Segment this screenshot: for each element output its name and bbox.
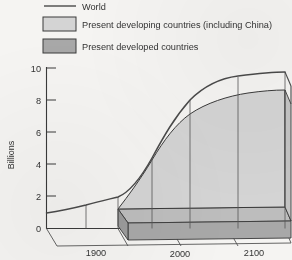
developed-top-face (118, 207, 291, 223)
x-axis: 1900 2000 2100 (86, 248, 264, 259)
floor-front-edge (57, 243, 291, 246)
legend-label-world: World (82, 2, 106, 12)
series-developing-countries (118, 90, 291, 221)
legend-swatch-developed (43, 39, 76, 53)
y-tick-label-10: 10 (31, 64, 41, 74)
legend-item-world: World (44, 2, 106, 12)
legend-item-developing: Present developing countries (including … (43, 17, 272, 31)
legend-item-developed: Present developed countries (43, 39, 199, 53)
y-tick-label-0: 0 (36, 224, 41, 234)
chart-legend: World Present developing countries (incl… (43, 2, 272, 54)
world-curve-right-depth (285, 72, 291, 86)
y-axis: 10 8 6 4 2 0 Billions (6, 64, 56, 234)
x-tick-label-2100: 2100 (244, 248, 264, 258)
y-tick-label-6: 6 (36, 128, 41, 138)
x-tick-label-2000: 2000 (170, 249, 190, 259)
y-tick-label-4: 4 (36, 160, 41, 170)
series-developed-countries (118, 207, 291, 240)
legend-label-developing: Present developing countries (including … (82, 20, 272, 30)
population-projection-chart: World Present developing countries (incl… (0, 0, 292, 260)
y-tick-label-2: 2 (36, 192, 41, 202)
floor-depth-line-origin (47, 229, 58, 247)
chart-canvas: World Present developing countries (incl… (0, 0, 292, 260)
y-axis-title: Billions (6, 140, 16, 169)
developed-front-face (128, 221, 291, 240)
y-tick-label-8: 8 (36, 96, 41, 106)
developing-right-face (285, 90, 291, 221)
legend-label-developed: Present developed countries (82, 42, 199, 52)
legend-swatch-developing (43, 17, 76, 31)
x-tick-label-1900: 1900 (86, 248, 106, 258)
developing-area-fill (118, 90, 285, 209)
